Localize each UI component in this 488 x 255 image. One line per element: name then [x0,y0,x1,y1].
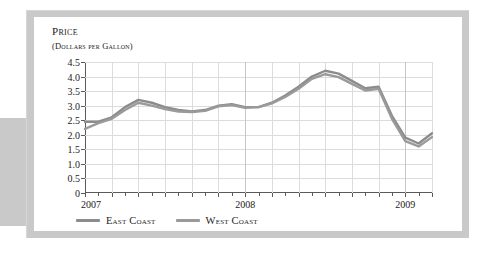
x-axis-year-label: 2007 [81,199,101,210]
x-axis-tick-mark [325,193,326,197]
left-gray-block [0,118,26,226]
x-axis-tick-mark [138,193,139,197]
y-axis-tick-label: 4.0 [68,71,81,82]
x-axis-tick-mark-minor [419,193,420,196]
y-axis-tick-label: 4.5 [68,57,81,68]
x-axis-tick-mark [192,193,193,197]
legend-item[interactable]: East Coast [76,215,156,226]
x-axis-year-label: 2009 [395,199,415,210]
x-axis-tick-mark-minor [339,193,340,196]
x-axis-tick-mark-minor [285,193,286,196]
x-axis-tick-mark [405,193,406,197]
x-axis-tick-mark-minor [259,193,260,196]
x-axis-year-label: 2008 [235,199,255,210]
y-axis-tick-label: 2.0 [68,129,81,140]
figure-card: Price (Dollars per Gallon) 00.51.01.52.0… [34,17,462,231]
legend-item[interactable]: West Coast [176,215,258,226]
x-axis-tick-mark-minor [98,193,99,196]
legend-line-swatch [76,219,100,222]
y-axis-title: Price (Dollars per Gallon) [52,25,133,52]
line-chart: 00.51.01.52.02.53.03.54.04.5 20072008200… [85,62,432,193]
x-axis-tick-mark [112,193,113,197]
x-axis-tick-mark [352,193,353,197]
x-axis-tick-mark-minor [365,193,366,196]
legend-line-swatch [176,219,200,222]
y-axis-title-primary: Price [52,25,133,38]
x-axis-tick-mark [85,193,86,197]
x-axis-tick-mark-minor [152,193,153,196]
y-axis-tick-label: 1.0 [68,158,81,169]
y-axis-tick-label: 2.5 [68,115,81,126]
x-axis-tick-mark [299,193,300,197]
x-axis-tick-mark [379,193,380,197]
y-axis-tick-label: 3.5 [68,86,81,97]
y-axis-title-units: (Dollars per Gallon) [52,40,133,52]
x-axis-tick-mark-minor [392,193,393,196]
series-line [85,74,432,146]
x-axis-tick-mark-minor [125,193,126,196]
y-axis-tick-label: 3.0 [68,100,81,111]
y-axis-tick-label: 1.5 [68,144,81,155]
x-axis-tick-mark [432,193,433,197]
y-axis-tick-label: 0 [75,188,80,199]
series-layer [85,62,432,193]
chart-legend: East CoastWest Coast [76,215,258,226]
x-axis-tick-mark-minor [205,193,206,196]
legend-label: West Coast [206,215,258,226]
y-axis-tick-label: 0.5 [68,173,81,184]
x-axis-tick-mark-minor [178,193,179,196]
x-axis-tick-mark [218,193,219,197]
x-axis-tick-mark-minor [312,193,313,196]
grid-line-vertical [432,62,433,193]
x-axis-tick-mark-minor [232,193,233,196]
x-axis-tick-mark [272,193,273,197]
x-axis-tick-mark [245,193,246,197]
legend-label: East Coast [106,215,156,226]
x-axis-tick-mark [165,193,166,197]
